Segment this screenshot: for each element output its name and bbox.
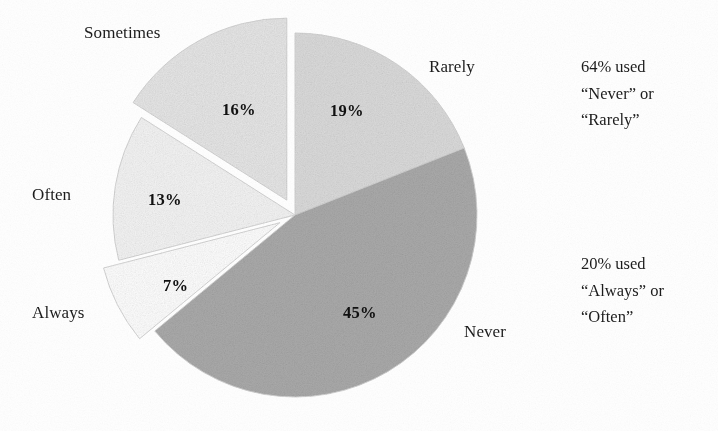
- pie-chart-figure: Sometimes Rarely Often Always Never 16% …: [0, 0, 718, 431]
- annotation-always-or-often: 20% used “Always” or “Often”: [581, 251, 664, 331]
- slice-label-never: Never: [464, 323, 506, 341]
- slice-label-always: Always: [32, 304, 85, 322]
- slice-label-sometimes: Sometimes: [84, 24, 160, 42]
- annotation-top-line-2: “Never” or: [581, 81, 654, 108]
- slice-value-always: 7%: [163, 276, 188, 296]
- slice-label-often: Often: [32, 186, 71, 204]
- annotation-never-or-rarely: 64% used “Never” or “Rarely”: [581, 54, 654, 134]
- annotation-top-line-1: 64% used: [581, 54, 654, 81]
- slice-value-never: 45%: [343, 303, 377, 323]
- annotation-bottom-line-2: “Always” or: [581, 278, 664, 305]
- slice-value-often: 13%: [148, 190, 182, 210]
- slice-value-sometimes: 16%: [222, 100, 256, 120]
- annotation-top-line-3: “Rarely”: [581, 107, 654, 134]
- slice-label-rarely: Rarely: [429, 58, 475, 76]
- annotation-bottom-line-1: 20% used: [581, 251, 664, 278]
- annotation-bottom-line-3: “Often”: [581, 304, 664, 331]
- slice-value-rarely: 19%: [330, 101, 364, 121]
